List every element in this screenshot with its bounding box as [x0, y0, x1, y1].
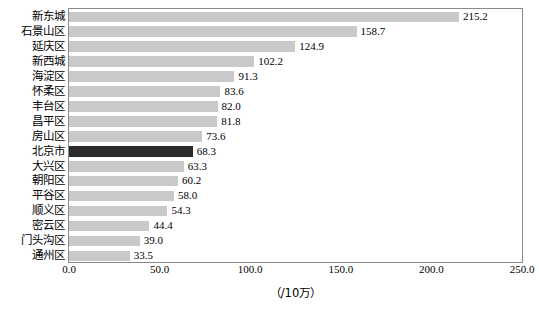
- bar-rows: 新东城215.2石景山区158.7延庆区124.9新西城102.2海淀区91.3…: [0, 0, 539, 255]
- x-tick-label: 0.0: [62, 263, 76, 275]
- bar-row: 怀柔区83.6: [0, 84, 539, 100]
- bar-row: 通州区33.5: [0, 248, 539, 264]
- bar-row: 新东城215.2: [0, 9, 539, 25]
- category-label: 房山区: [0, 129, 65, 145]
- x-tick-label: 100.0: [238, 263, 263, 275]
- x-axis-ticks: 0.050.0100.0150.0200.0250.0: [68, 263, 523, 283]
- bar-value-label: 124.9: [299, 39, 324, 55]
- bar-value-label: 44.4: [153, 218, 172, 234]
- category-label: 丰台区: [0, 99, 65, 115]
- category-label: 延庆区: [0, 39, 65, 55]
- category-label: 新东城: [0, 9, 65, 25]
- category-label: 顺义区: [0, 203, 65, 219]
- category-label: 门头沟区: [0, 233, 65, 249]
- bar: [69, 251, 130, 262]
- bar-row: 新西城102.2: [0, 54, 539, 70]
- bar-chart: 新东城215.2石景山区158.7延庆区124.9新西城102.2海淀区91.3…: [0, 0, 539, 311]
- bar-value-label: 60.2: [182, 173, 201, 189]
- bar-row: 密云区44.4: [0, 218, 539, 234]
- bar-value-label: 54.3: [171, 203, 190, 219]
- bar-value-label: 81.8: [221, 114, 240, 130]
- category-label: 新西城: [0, 54, 65, 70]
- bar: [69, 206, 167, 217]
- x-tick-label: 250.0: [510, 263, 535, 275]
- bar: [69, 236, 140, 247]
- bar: [69, 146, 193, 157]
- bar-value-label: 82.0: [222, 99, 241, 115]
- bar-value-label: 73.6: [206, 129, 225, 145]
- bar-row: 丰台区82.0: [0, 99, 539, 115]
- bar-row: 石景山区158.7: [0, 24, 539, 40]
- x-tick-label: 200.0: [419, 263, 444, 275]
- bar-value-label: 83.6: [224, 84, 243, 100]
- category-label: 平谷区: [0, 188, 65, 204]
- bar-row: 大兴区63.3: [0, 159, 539, 175]
- bar: [69, 131, 202, 142]
- category-label: 海淀区: [0, 69, 65, 85]
- bar-row: 延庆区124.9: [0, 39, 539, 55]
- category-label: 朝阳区: [0, 173, 65, 189]
- bar-value-label: 158.7: [361, 24, 386, 40]
- bar-value-label: 215.2: [463, 9, 488, 25]
- bar: [69, 26, 357, 37]
- bar-value-label: 102.2: [258, 54, 283, 70]
- bar: [69, 176, 178, 187]
- category-label: 怀柔区: [0, 84, 65, 100]
- bar: [69, 116, 217, 127]
- bar: [69, 191, 174, 202]
- bar-value-label: 33.5: [134, 248, 153, 264]
- bar-row: 海淀区91.3: [0, 69, 539, 85]
- bar: [69, 12, 459, 23]
- bar-row: 顺义区54.3: [0, 203, 539, 219]
- bar: [69, 161, 184, 172]
- bar-value-label: 91.3: [238, 69, 257, 85]
- bar-value-label: 58.0: [178, 188, 197, 204]
- bar-row: 平谷区58.0: [0, 188, 539, 204]
- x-tick-label: 50.0: [150, 263, 169, 275]
- bar: [69, 71, 234, 82]
- x-tick-label: 150.0: [328, 263, 353, 275]
- bar-row: 昌平区81.8: [0, 114, 539, 130]
- bar: [69, 221, 149, 232]
- bar: [69, 101, 218, 112]
- category-label: 昌平区: [0, 114, 65, 130]
- bar-row: 北京市68.3: [0, 144, 539, 160]
- category-label: 北京市: [0, 144, 65, 160]
- bar: [69, 86, 220, 97]
- bar-value-label: 68.3: [197, 144, 216, 160]
- bar-row: 房山区73.6: [0, 129, 539, 145]
- bar-row: 门头沟区39.0: [0, 233, 539, 249]
- category-label: 石景山区: [0, 24, 65, 40]
- bar: [69, 56, 254, 67]
- bar-value-label: 39.0: [144, 233, 163, 249]
- bar-row: 朝阳区60.2: [0, 173, 539, 189]
- bar-value-label: 63.3: [188, 159, 207, 175]
- x-axis-title: （/10万）: [68, 284, 523, 300]
- bar: [69, 41, 295, 52]
- category-label: 密云区: [0, 218, 65, 234]
- category-label: 大兴区: [0, 159, 65, 175]
- category-label: 通州区: [0, 248, 65, 264]
